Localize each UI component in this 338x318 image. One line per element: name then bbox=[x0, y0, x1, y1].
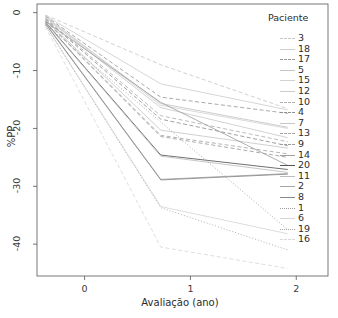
legend-item: 16 bbox=[280, 234, 330, 245]
line-chart: %PP Avaliação (ano) Paciente 31817515121… bbox=[0, 0, 338, 318]
legend-line-sample bbox=[280, 218, 295, 220]
legend-label: 3 bbox=[298, 32, 304, 43]
series-line bbox=[45, 15, 287, 109]
legend-line-sample bbox=[280, 239, 295, 241]
legend-label: 16 bbox=[298, 233, 310, 244]
legend-label: 7 bbox=[298, 117, 304, 128]
y-tick-label: -40 bbox=[11, 229, 22, 259]
legend-line-sample bbox=[280, 102, 295, 104]
legend-label: 17 bbox=[298, 53, 310, 64]
legend-line-sample bbox=[280, 165, 295, 167]
x-axis-label: Avaliação (ano) bbox=[60, 297, 300, 308]
legend-label: 1 bbox=[298, 202, 304, 213]
legend-label: 4 bbox=[298, 106, 304, 117]
legend-line-sample bbox=[280, 208, 295, 210]
legend-label: 19 bbox=[298, 223, 310, 234]
legend-item: 17 bbox=[280, 54, 330, 65]
x-tick-label: 1 bbox=[175, 283, 205, 294]
legend-label: 10 bbox=[298, 96, 310, 107]
legend-label: 15 bbox=[298, 74, 310, 85]
legend-line-sample bbox=[280, 155, 295, 157]
legend-line-sample bbox=[280, 229, 295, 231]
y-tick-label: -20 bbox=[11, 113, 22, 143]
legend-item: 8 bbox=[280, 192, 330, 203]
legend-line-sample bbox=[280, 91, 295, 93]
legend-label: 5 bbox=[298, 64, 304, 75]
series-line bbox=[45, 21, 287, 165]
legend-label: 18 bbox=[298, 43, 310, 54]
legend-line-sample bbox=[280, 197, 295, 199]
legend-line-sample bbox=[280, 59, 295, 61]
legend-line-sample bbox=[280, 144, 295, 146]
legend-label: 6 bbox=[298, 212, 304, 223]
legend-line-sample bbox=[280, 176, 295, 178]
legend-label: 14 bbox=[298, 149, 310, 160]
series-line bbox=[45, 24, 287, 229]
legend-item: 4 bbox=[280, 107, 330, 118]
y-tick-label: -10 bbox=[11, 55, 22, 85]
legend-label: 8 bbox=[298, 191, 304, 202]
legend-title: Paciente bbox=[268, 12, 308, 23]
legend-item: 13 bbox=[280, 128, 330, 139]
legend-line-sample bbox=[280, 49, 295, 51]
series-line bbox=[45, 21, 287, 158]
legend-item: 11 bbox=[280, 171, 330, 182]
legend-label: 11 bbox=[298, 170, 310, 181]
legend-item: 10 bbox=[280, 97, 330, 108]
legend-line-sample bbox=[280, 70, 295, 72]
series-line bbox=[45, 20, 287, 154]
legend-label: 12 bbox=[298, 85, 310, 96]
legend-label: 2 bbox=[298, 180, 304, 191]
legend-label: 20 bbox=[298, 159, 310, 170]
legend-item: 2 bbox=[280, 181, 330, 192]
x-tick-label: 0 bbox=[70, 283, 100, 294]
legend-line-sample bbox=[280, 80, 295, 82]
series-line bbox=[45, 18, 287, 138]
y-tick-label: 0 bbox=[11, 0, 22, 27]
x-tick-label: 2 bbox=[281, 283, 311, 294]
legend-label: 9 bbox=[298, 138, 304, 149]
legend-line-sample bbox=[280, 133, 295, 135]
legend-line-sample bbox=[280, 123, 295, 125]
legend-item: 1 bbox=[280, 203, 330, 214]
legend-line-sample bbox=[280, 186, 295, 188]
legend-label: 13 bbox=[298, 127, 310, 138]
legend-line-sample bbox=[280, 38, 295, 40]
legend-line-sample bbox=[280, 112, 295, 114]
y-tick-label: -30 bbox=[11, 171, 22, 201]
